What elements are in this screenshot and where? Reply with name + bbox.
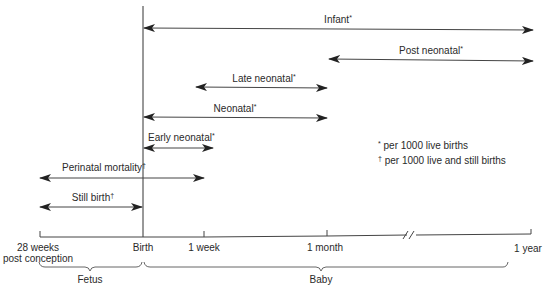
tick-label-1-month: 1 month xyxy=(307,242,343,253)
tick-label-1-year: 1 year xyxy=(514,243,542,254)
baby-label: Baby xyxy=(310,274,333,285)
post-neonatal-label: Post neonatal* xyxy=(399,45,463,56)
baby-brace xyxy=(144,262,508,271)
perinatal-mortality-label: Perinatal mortality† xyxy=(62,162,146,173)
late-neonatal-arrow xyxy=(196,87,327,88)
time-axis xyxy=(40,229,531,239)
early-neonatal-label: Early neonatal* xyxy=(148,132,215,143)
tick-label-1-week: 1 week xyxy=(188,242,220,253)
fetus-label: Fetus xyxy=(77,274,102,285)
tick-label-birth: Birth xyxy=(133,242,154,253)
neonatal-arrow xyxy=(144,117,327,118)
late-neonatal-label: Late neonatal* xyxy=(232,73,295,84)
still-birth-label: Still birth† xyxy=(72,192,114,203)
mortality-timeline-diagram: Infant* Post neonatal* Late neonatal* Ne… xyxy=(0,0,548,292)
legend-live-and-still-births: † per 1000 live and still births xyxy=(378,155,506,166)
tick-label-28-weeks: 28 weeks post conception xyxy=(3,242,73,264)
infant-label: Infant* xyxy=(324,14,352,25)
neonatal-label: Neonatal* xyxy=(214,103,257,114)
legend-live-births: * per 1000 live births xyxy=(378,140,468,151)
post-neonatal-arrow xyxy=(329,59,533,61)
infant-arrow xyxy=(144,28,533,30)
